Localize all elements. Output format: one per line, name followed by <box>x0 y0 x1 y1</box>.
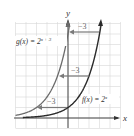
shift-label-middle: −3 <box>71 66 80 75</box>
shift-label-bottom: −3 <box>47 97 56 106</box>
f-function-label: f(x) = 2x <box>82 95 108 104</box>
shift-arrow-top: −3 <box>69 22 99 35</box>
exponential-graph: −3 −3 −3 y x g(x) = 2x + 3 f(x) = 2x <box>0 0 134 136</box>
x-axis-label: x <box>122 113 127 123</box>
shift-arrow-middle: −3 <box>59 66 89 79</box>
f-curve-arrowhead-icon <box>98 19 103 26</box>
x-axis-arrow-icon <box>114 116 120 120</box>
shift-label-top: −3 <box>78 22 87 31</box>
y-axis-label: y <box>65 8 70 18</box>
arrow-left-icon <box>59 74 64 79</box>
